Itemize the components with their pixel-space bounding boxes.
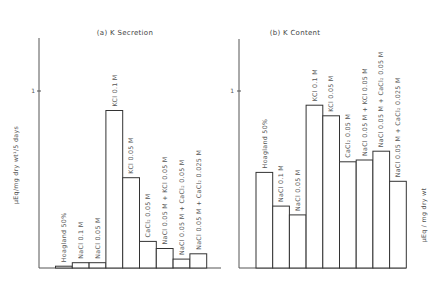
bar bbox=[373, 151, 390, 268]
bar-label: NaCl 0.05 M + CaCl₂ 0.05 M bbox=[377, 52, 384, 148]
bar bbox=[72, 263, 89, 268]
bar bbox=[156, 249, 173, 269]
bar bbox=[173, 259, 190, 268]
panel-b-y-label: μEq / mg dry wt bbox=[420, 187, 428, 242]
bar-label: Hoagland 50% bbox=[261, 119, 269, 169]
bar-label: KCl 0.1 M bbox=[111, 74, 118, 106]
panel-b-title: (b) K Content bbox=[270, 29, 321, 37]
bar-label: KCl 0.05 M bbox=[327, 75, 334, 111]
bar-label: Hoagland 50% bbox=[60, 213, 68, 263]
bar bbox=[106, 111, 123, 269]
bar bbox=[190, 254, 207, 268]
figure: (a) K Secretion 1 μEq/mg dry wt¹/5 days … bbox=[0, 0, 440, 283]
bar-label: CaCl₂ 0.05 M bbox=[144, 193, 151, 237]
bar-label: NaCl 0.1 M bbox=[77, 222, 84, 259]
bar bbox=[340, 162, 357, 268]
bar-label: NaCl 0.05 M bbox=[94, 217, 101, 258]
bar-label: KCl 0.1 M bbox=[311, 69, 318, 101]
bar bbox=[390, 181, 407, 268]
bar-label: NaCl 0.05 M + CaCl₂ 0.05 M bbox=[178, 159, 185, 255]
bar-label: NaCl 0.05 M + KCl 0.05 M bbox=[361, 68, 368, 156]
panel-a-tick-label: 1 bbox=[31, 87, 35, 94]
bar-label: NaCl 0.05 M + CaCl₂ 0.025 M bbox=[195, 150, 202, 250]
bar bbox=[140, 241, 157, 268]
panel-k-secretion: (a) K Secretion 1 μEq/mg dry wt¹/5 days … bbox=[12, 29, 221, 268]
bar-label: CaCl₂ 0.05 M bbox=[344, 114, 351, 158]
bar-label: NaCl 0.05 M + KCl 0.05 M bbox=[161, 156, 168, 244]
bar bbox=[89, 263, 106, 268]
bar bbox=[306, 105, 323, 268]
bar bbox=[289, 215, 306, 268]
bar bbox=[356, 160, 373, 268]
bar-label: NaCl 0.05 M + CaCl₂ 0.025 M bbox=[394, 77, 401, 177]
bar-label: KCl 0.05 M bbox=[127, 137, 134, 173]
bar bbox=[273, 206, 290, 268]
panel-a-title: (a) K Secretion bbox=[97, 29, 153, 37]
panel-b-tick-label: 1 bbox=[230, 87, 234, 94]
panel-k-content: (b) K Content 1 μEq / mg dry wt Hoagland… bbox=[230, 29, 428, 268]
bar bbox=[256, 172, 273, 268]
panel-a-y-label: μEq/mg dry wt¹/5 days bbox=[12, 126, 20, 204]
bar-label: NaCl 0.05 M bbox=[294, 169, 301, 210]
bar-label: NaCl 0.1 M bbox=[277, 165, 284, 202]
bar bbox=[123, 178, 140, 268]
bar bbox=[323, 116, 340, 268]
bar bbox=[56, 266, 73, 268]
